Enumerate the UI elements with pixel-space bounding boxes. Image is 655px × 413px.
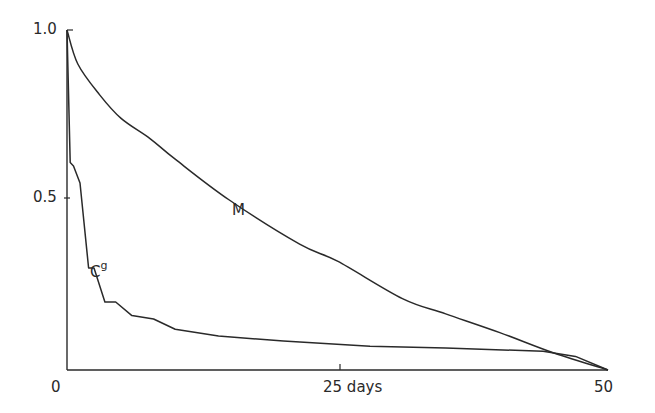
curve-label-cg-base: C [90, 263, 100, 281]
curve-label-cg: Cg [90, 265, 107, 280]
y-tick-label-05: 0.5 [33, 190, 57, 205]
curve-m [67, 30, 608, 370]
curve-cg [67, 30, 608, 370]
y-tick-label-1: 1.0 [33, 22, 57, 37]
x-tick-label-0: 0 [51, 380, 61, 395]
axes [64, 30, 608, 370]
x-tick-label-50: 50 [594, 380, 613, 395]
curve-label-m: M [232, 203, 245, 218]
curve-label-cg-sup: g [100, 259, 107, 272]
x-tick-label-25: 25 days [323, 380, 382, 395]
line-chart [0, 0, 655, 413]
